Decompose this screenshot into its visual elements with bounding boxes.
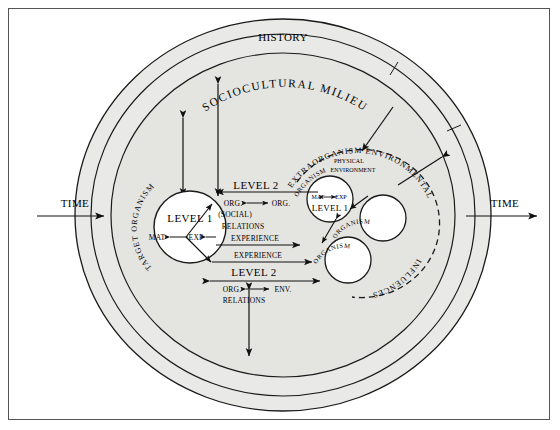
target-level1-label: LEVEL 1 — [167, 212, 212, 224]
time-label-left: TIME — [61, 197, 89, 209]
linkage-org-right: ORG. — [272, 199, 291, 208]
linkage-experience-1: EXPERIENCE — [231, 234, 279, 243]
extra-mat-label: MAT — [312, 194, 325, 200]
linkage-env-left: ORG. — [223, 285, 242, 294]
linkage-env-right: ENV. — [274, 285, 291, 294]
diagram-svg: HISTORY SOCIOCULTURAL MILIEU TIME TIME T… — [0, 0, 560, 430]
linkage-level2-social-heading: LEVEL 2 — [233, 179, 278, 191]
extra-level1-label: LEVEL 1 — [312, 203, 348, 213]
target-exp-label: EXP — [189, 233, 204, 242]
linkage-env-relations-word: RELATIONS — [223, 296, 266, 305]
linkage-relations-word: RELATIONS — [222, 222, 265, 231]
history-label: HISTORY — [258, 31, 308, 43]
extra-exp-label: EXP — [335, 194, 347, 200]
time-label-right: TIME — [491, 197, 519, 209]
environment-label: ENVIRONMENT — [330, 167, 375, 173]
diagram-stage: HISTORY SOCIOCULTURAL MILIEU TIME TIME T… — [0, 0, 560, 430]
target-organism-core — [154, 191, 226, 263]
linkage-social-qualifier: (SOCIAL) — [218, 210, 252, 219]
linkage-experience-2: EXPERIENCE — [234, 251, 282, 260]
physical-label: PHYSICAL — [334, 158, 364, 164]
linkage-org-left: ORG. — [224, 199, 243, 208]
linkage-level2-env-heading: LEVEL 2 — [231, 266, 276, 278]
target-mat-label: MAT — [149, 233, 166, 242]
